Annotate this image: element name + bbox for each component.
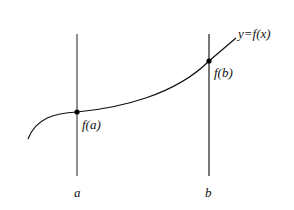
point-a-label: f(a) — [82, 118, 101, 131]
point-f-a — [74, 109, 79, 114]
axis-a-label: a — [74, 186, 81, 199]
curve-f-of-x — [28, 38, 236, 139]
axis-b-label: b — [205, 186, 212, 199]
point-f-b — [206, 58, 211, 63]
point-b-label: f(b) — [214, 66, 233, 79]
diagram-canvas: y=f(x) f(b) f(a) a b — [0, 0, 294, 210]
curve-label: y=f(x) — [238, 27, 271, 40]
